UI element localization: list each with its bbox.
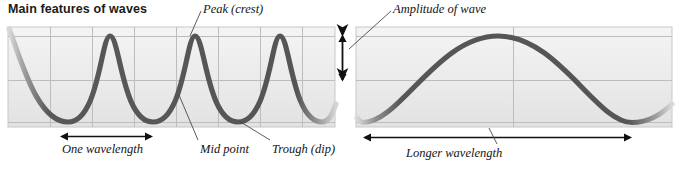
label-amplitude-of-wave: Amplitude of wave [393,2,486,17]
label-mid-point: Mid point [200,142,249,157]
wave-features-figure: Main features of waves [0,0,688,180]
label-peak-crest: Peak (crest) [203,2,263,17]
label-trough-dip: Trough (dip) [272,142,335,157]
label-longer-wavelength: Longer wavelength [406,146,502,161]
amplitude-arrow [338,35,346,82]
right-panel [356,27,672,127]
leader-longer-wl [489,128,497,144]
longer-wavelength-arrow [363,134,632,142]
label-one-wavelength: One wavelength [62,142,143,157]
left-panel [8,27,336,127]
one-wavelength-arrow [60,133,153,141]
